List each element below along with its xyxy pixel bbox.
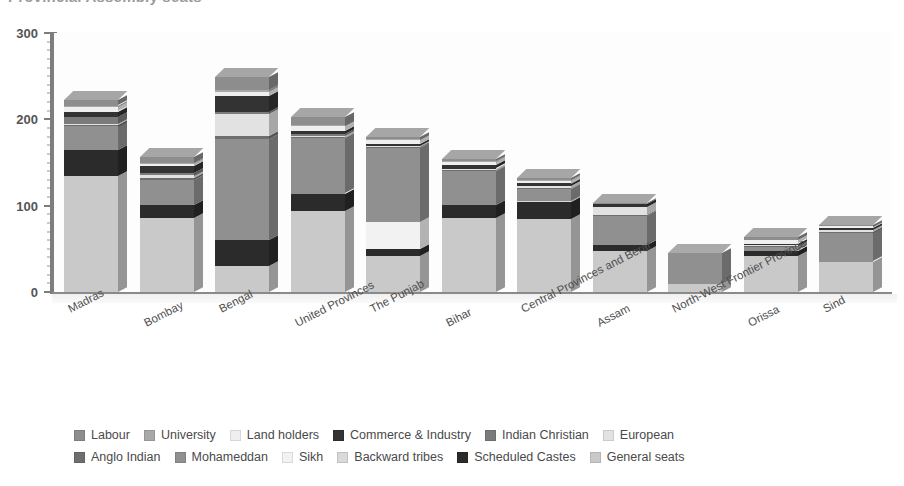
- x-axis-label: Assam: [595, 302, 632, 329]
- legend-label: Anglo Indian: [91, 450, 161, 464]
- legend-item[interactable]: European: [603, 428, 674, 442]
- bar-segment: [215, 266, 269, 292]
- legend-item[interactable]: Scheduled Castes: [457, 450, 575, 464]
- bar-segment-face: [64, 126, 118, 150]
- legend-label: Commerce & Industry: [350, 428, 471, 442]
- bar-segment-face: [64, 117, 118, 124]
- bar-segment-side: [345, 134, 354, 194]
- bar-segment-face: [215, 112, 269, 114]
- legend-item[interactable]: Backward tribes: [337, 450, 443, 464]
- bar-segment: [291, 138, 345, 193]
- bar-segment-face: [64, 112, 118, 117]
- legend-label: Scheduled Castes: [474, 450, 575, 464]
- legend-item[interactable]: Anglo Indian: [74, 450, 161, 464]
- bar-segment-face: [291, 117, 345, 126]
- bar-segment-face: [291, 137, 345, 138]
- bar-segment-face: [215, 77, 269, 90]
- bar-segment: [291, 125, 345, 126]
- bar-segment: [215, 92, 269, 96]
- legend-label: Mohameddan: [192, 450, 268, 464]
- bar-column[interactable]: [64, 33, 126, 292]
- bar-column[interactable]: [442, 33, 504, 292]
- x-axis-label: Orissa: [746, 303, 781, 329]
- legend-item[interactable]: University: [144, 428, 216, 442]
- bar-top-face: [819, 216, 882, 225]
- legend-item[interactable]: Commerce & Industry: [333, 428, 471, 442]
- bar-segment: [517, 181, 571, 184]
- bar-segment: [140, 218, 194, 292]
- bar-segment: [215, 77, 269, 90]
- bar-segment-face: [442, 171, 496, 205]
- legend-row-1: LabourUniversityLand holdersCommerce & I…: [74, 424, 844, 446]
- bar-segment-face: [366, 144, 420, 146]
- bar-segment-side: [345, 206, 354, 292]
- bar-segment: [291, 137, 345, 138]
- bar-segment-face: [366, 147, 420, 148]
- bar-top-face: [215, 68, 278, 77]
- bar-column[interactable]: [517, 33, 579, 292]
- bar-segment-side: [269, 261, 278, 292]
- bar-segment-face: [291, 126, 345, 131]
- bar-segment-face: [140, 163, 194, 164]
- bar-segment: [215, 114, 269, 136]
- bar-segment-face: [64, 100, 118, 105]
- bar-segment: [64, 112, 118, 117]
- legend-swatch-icon: [230, 430, 241, 441]
- bar-segment-face: [593, 216, 647, 245]
- legend-item[interactable]: Land holders: [230, 428, 319, 442]
- bar-segment: [140, 180, 194, 205]
- bar-segment-face: [215, 136, 269, 139]
- bar-segment: [64, 150, 118, 176]
- bar-column[interactable]: [668, 33, 730, 292]
- legend-item[interactable]: Indian Christian: [485, 428, 589, 442]
- bar-top-face: [291, 108, 354, 117]
- bar-segment: [215, 90, 269, 92]
- legend-swatch-icon: [74, 452, 85, 463]
- bar-segment: [366, 249, 420, 256]
- legend-swatch-icon: [457, 452, 468, 463]
- x-axis-label: Bombay: [142, 299, 185, 329]
- bar-segment-face: [291, 134, 345, 136]
- bar-segment-face: [140, 175, 194, 178]
- bar-segment: [819, 228, 873, 230]
- bar-segment: [668, 253, 722, 284]
- legend-item[interactable]: Labour: [74, 428, 130, 442]
- bar-segment: [291, 136, 345, 138]
- legend-swatch-icon: [337, 452, 348, 463]
- bar-segment-face: [366, 249, 420, 256]
- bar-column[interactable]: [366, 33, 428, 292]
- bar-segment-face: [517, 188, 571, 189]
- bar-segment: [215, 139, 269, 240]
- bar-segment-side: [420, 143, 429, 222]
- bar-segment: [744, 237, 798, 240]
- legend-item[interactable]: Sikh: [282, 450, 323, 464]
- bar-segment-face: [366, 139, 420, 140]
- bar-column[interactable]: [291, 33, 353, 292]
- legend-label: Sikh: [299, 450, 323, 464]
- bar-segment: [291, 131, 345, 134]
- bar-segment: [366, 146, 420, 147]
- legend-item[interactable]: Mohameddan: [175, 450, 268, 464]
- bar-column[interactable]: [819, 33, 881, 292]
- bar-segment-face: [819, 232, 873, 261]
- chart-root: Provincial Assembly seats 3002001000 Mad…: [0, 0, 904, 486]
- bar-segment: [64, 106, 118, 107]
- bar-segment: [291, 194, 345, 211]
- bar-segment-face: [517, 202, 571, 219]
- bar-segment-face: [442, 159, 496, 161]
- bar-segment: [819, 230, 873, 232]
- bar-segment-face: [366, 146, 420, 147]
- bar-column[interactable]: [140, 33, 202, 292]
- legend-label: Backward tribes: [354, 450, 443, 464]
- bar-segment: [593, 216, 647, 245]
- bar-segment-side: [269, 134, 278, 240]
- bar-segment-side: [647, 247, 656, 292]
- bar-column[interactable]: [215, 33, 277, 292]
- bar-segment-side: [420, 217, 429, 249]
- bar-segment-face: [215, 266, 269, 292]
- bar-segment-face: [442, 170, 496, 171]
- bar-segment: [366, 140, 420, 144]
- bar-segment: [819, 232, 873, 233]
- legend-item[interactable]: General seats: [590, 450, 685, 464]
- bar-segment-face: [64, 125, 118, 127]
